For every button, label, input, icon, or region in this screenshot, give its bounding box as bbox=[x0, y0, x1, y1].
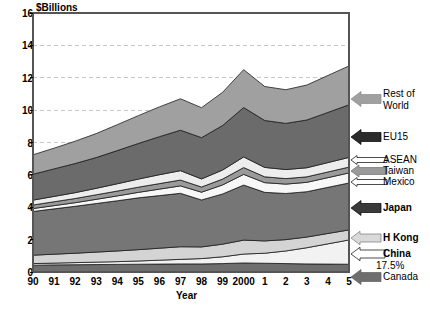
legend-label-japan: Japan bbox=[383, 203, 412, 213]
legend-label-mexico: Mexico bbox=[383, 177, 415, 187]
legend-label-china: China bbox=[383, 249, 411, 259]
legend-arrow-h-kong bbox=[351, 231, 381, 245]
legend-arrow-layer bbox=[351, 92, 387, 285]
legend-arrow-mexico bbox=[351, 178, 387, 187]
legend-label-rest-of: Rest ofWorld bbox=[383, 89, 415, 111]
plot-area bbox=[0, 0, 430, 310]
legend-arrow-rest-of bbox=[351, 92, 381, 107]
legend-label-asean: ASEAN bbox=[383, 155, 417, 165]
legend-arrow-asean bbox=[351, 156, 387, 165]
legend-label-eu15: EU15 bbox=[383, 132, 408, 142]
legend-arrow-china bbox=[351, 247, 385, 261]
legend-label-h-kong: H Kong bbox=[383, 233, 419, 243]
stacked-area-chart: $Billions 0246810121416 9091929394959697… bbox=[0, 0, 430, 310]
legend-arrow-canada bbox=[351, 270, 381, 285]
legend-arrow-taiwan bbox=[351, 165, 387, 177]
legend-arrow-japan bbox=[351, 201, 381, 216]
legend-arrow-eu15 bbox=[351, 130, 381, 145]
legend-label-17-5-: 17.5% bbox=[376, 261, 404, 271]
legend-label-taiwan: Taiwan bbox=[383, 166, 414, 176]
legend-label-canada: Canada bbox=[383, 272, 418, 282]
area-series-layer bbox=[33, 66, 349, 272]
